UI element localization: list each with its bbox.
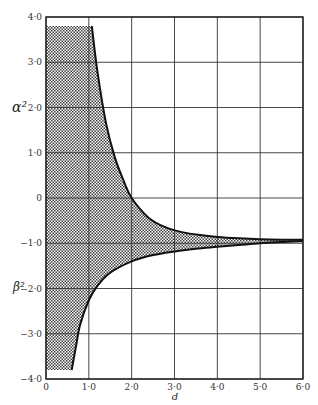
y-tick-label: −3·0 [20,329,42,339]
x-axis-label: d [172,391,178,402]
y-tick-labels: 4·03·02·01·00−1·0−2·0−3·0−4·0 [20,12,42,384]
y-tick-label: 3·0 [28,57,43,67]
chart: 4·03·02·01·00−1·0−2·0−3·0−4·0 01·02·03·0… [0,0,318,405]
y-tick-label: 4·0 [28,12,43,22]
y-tick-label: 1·0 [28,148,43,158]
y-tick-label: −1·0 [20,238,42,248]
y-tick-label: 2·0 [28,103,43,113]
x-tick-label: 4·0 [210,382,225,392]
x-tick-label: 6·0 [296,382,311,392]
x-tick-label: 2·0 [125,382,140,392]
x-tick-label: 5·0 [253,382,268,392]
x-tick-label: 1·0 [82,382,97,392]
y-label-alpha-squared: α² [12,99,27,115]
y-label-beta-squared: β² [12,280,25,294]
y-tick-label: 0 [36,193,42,203]
y-tick-label: −4·0 [20,374,42,384]
x-tick-label: 0 [43,382,49,392]
